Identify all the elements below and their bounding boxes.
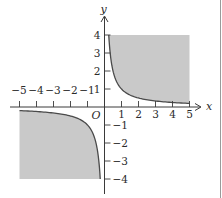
x-tick-label: 3 — [152, 108, 159, 120]
x-tick-label: −5 — [11, 84, 26, 96]
y-tick-label: −1 — [113, 119, 128, 131]
x-tick-label: −2 — [62, 84, 77, 96]
inequality-graph: −5−4−3−2−1123454321−1−2−3−4xyO — [0, 0, 222, 198]
y-tick-label: 1 — [94, 83, 101, 95]
x-tick-label: −4 — [28, 84, 44, 96]
x-tick-label: −1 — [79, 84, 94, 96]
shaded-region-quadrant-1 — [109, 35, 190, 103]
x-tick-label: 2 — [135, 108, 142, 120]
y-tick-label: 2 — [94, 65, 101, 77]
y-tick-label: 3 — [94, 47, 101, 59]
x-tick-label: 4 — [169, 108, 176, 120]
y-tick-label: −3 — [113, 155, 128, 167]
y-tick-label: 4 — [94, 29, 101, 41]
y-tick-label: −4 — [113, 173, 129, 185]
y-axis-label: y — [99, 3, 107, 16]
shaded-region-quadrant-3 — [20, 111, 101, 179]
origin-label: O — [91, 109, 100, 122]
x-axis-label: x — [206, 100, 213, 113]
plot-canvas: −5−4−3−2−1123454321−1−2−3−4xyO — [0, 0, 222, 198]
x-tick-label: 5 — [186, 108, 193, 120]
y-tick-label: −2 — [113, 137, 128, 149]
x-tick-label: −3 — [45, 84, 60, 96]
